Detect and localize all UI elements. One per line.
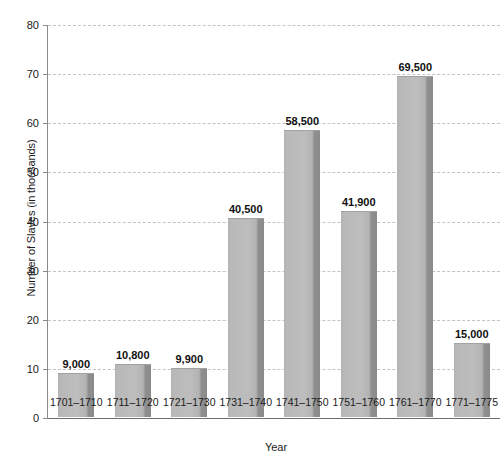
y-tick-mark — [43, 222, 48, 223]
y-tick-label: 40 — [27, 216, 39, 228]
bar-value-label: 41,900 — [342, 196, 376, 208]
x-tick-label: 1721–1730 — [161, 396, 218, 408]
x-tick-label: 1711–1720 — [105, 396, 162, 408]
plot-area: 01020304050607080 9,00010,8009,90040,500… — [48, 25, 500, 418]
bar-value-label: 9,900 — [175, 353, 203, 365]
y-tick-mark — [43, 172, 48, 173]
y-tick-mark — [43, 123, 48, 124]
bar-value-label: 9,000 — [62, 358, 90, 370]
y-tick-mark — [43, 369, 48, 370]
bar — [397, 76, 433, 417]
bar-group: 41,900 — [341, 211, 377, 417]
y-tick-label: 20 — [27, 314, 39, 326]
bar-value-label: 58,500 — [285, 115, 319, 127]
y-tick-label: 10 — [27, 363, 39, 375]
y-tick-label: 50 — [27, 166, 39, 178]
y-tick-label: 70 — [27, 68, 39, 80]
x-tick-label: 1751–1760 — [331, 396, 388, 408]
y-tick-mark — [43, 418, 48, 419]
y-tick-mark — [43, 74, 48, 75]
y-tick-mark — [43, 271, 48, 272]
bar — [341, 211, 377, 417]
bar-group: 58,500 — [284, 130, 320, 417]
x-tick-label: 1761–1770 — [387, 396, 444, 408]
bar-value-label: 40,500 — [229, 203, 263, 215]
y-tick-label: 60 — [27, 117, 39, 129]
bar — [171, 368, 207, 417]
bar-value-label: 69,500 — [398, 61, 432, 73]
bar-group: 9,000 — [58, 373, 94, 417]
bar-value-label: 10,800 — [116, 349, 150, 361]
gridline — [48, 25, 500, 26]
bar-group: 10,800 — [115, 364, 151, 417]
bar — [284, 130, 320, 417]
y-tick-label: 80 — [27, 19, 39, 31]
x-tick-label: 1701–1710 — [48, 396, 105, 408]
bar-value-label: 15,000 — [455, 328, 489, 340]
y-tick-mark — [43, 320, 48, 321]
bar-chart: Number of Slaves (in thousands) 01020304… — [0, 0, 504, 462]
y-tick-label: 30 — [27, 265, 39, 277]
x-tick-label: 1741–1750 — [274, 396, 331, 408]
bar-group: 69,500 — [397, 76, 433, 417]
x-tick-label: 1771–1775 — [444, 396, 501, 408]
bar — [228, 218, 264, 417]
y-tick-mark — [43, 25, 48, 26]
x-axis-title: Year — [48, 441, 504, 453]
bar-group: 9,900 — [171, 368, 207, 417]
x-tick-label: 1731–1740 — [218, 396, 275, 408]
bar-group: 40,500 — [228, 218, 264, 417]
y-tick-label: 0 — [33, 412, 39, 424]
x-axis-line — [47, 418, 500, 419]
bar — [58, 373, 94, 417]
bar — [115, 364, 151, 417]
